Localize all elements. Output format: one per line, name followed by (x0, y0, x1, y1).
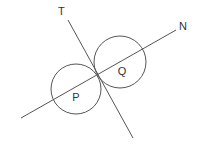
label-Q: Q (118, 65, 127, 77)
line-n (21, 30, 176, 118)
diagram-canvas: T N P Q (0, 0, 199, 148)
circle-p (51, 64, 101, 114)
label-N: N (179, 20, 187, 32)
diagram-svg: T N P Q (0, 0, 199, 148)
label-P: P (72, 91, 79, 103)
label-T: T (58, 5, 65, 17)
line-t (68, 20, 133, 138)
